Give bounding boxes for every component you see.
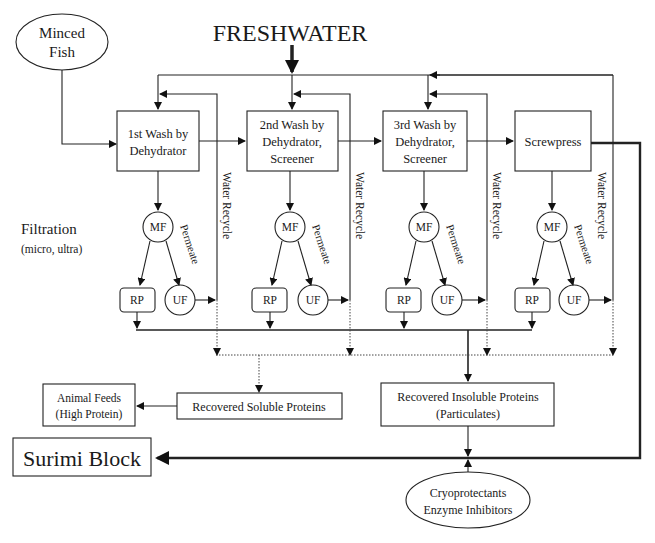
- permeate-label: Permeate: [444, 223, 468, 266]
- uf-label: UF: [440, 294, 455, 306]
- additives-label: Cryoprotectants: [430, 486, 507, 500]
- animal-feeds-label: Animal Feeds: [57, 392, 122, 404]
- additives-node: [406, 472, 530, 528]
- insoluble-proteins-label: Recovered Insoluble Proteins: [397, 390, 539, 404]
- rp-label: RP: [397, 294, 411, 306]
- surimi-block-label: Surimi Block: [23, 446, 141, 471]
- mf-label: MF: [416, 221, 433, 233]
- freshwater-label: FRESHWATER: [213, 20, 368, 46]
- permeate-label: Permeate: [310, 223, 334, 266]
- water-recycle-label: Water Recycle: [490, 172, 503, 239]
- filtration-subtitle: (micro, ultra): [21, 243, 82, 256]
- uf-label: UF: [173, 294, 188, 306]
- permeate-label: Permeate: [572, 223, 596, 266]
- stage-2-label-2: Dehydrator,: [262, 135, 322, 149]
- soluble-proteins-label: Recovered Soluble Proteins: [192, 400, 326, 414]
- rp-label: RP: [263, 294, 277, 306]
- mf-label: MF: [150, 221, 167, 233]
- water-recycle-label: Water Recycle: [220, 172, 233, 239]
- stage-3-label-3: Screener: [403, 152, 448, 166]
- rp-label: RP: [130, 294, 144, 306]
- stage-3-label: 3rd Wash by: [394, 118, 457, 132]
- stage-4-label: Screwpress: [525, 135, 582, 149]
- additives-label-2: Enzyme Inhibitors: [424, 503, 513, 517]
- mf-label: MF: [544, 221, 561, 233]
- uf-label: UF: [306, 294, 321, 306]
- stage-3-label-2: Dehydrator,: [395, 135, 455, 149]
- stage-1-label: 1st Wash by: [128, 127, 189, 141]
- rp-label: RP: [525, 294, 539, 306]
- mf-label: MF: [282, 221, 299, 233]
- surimi-process-flow-diagram: Minced Fish FRESHWATER 1st Wash by Dehyd…: [0, 0, 655, 543]
- filtration-title: Filtration: [21, 221, 77, 237]
- water-recycle-label: Water Recycle: [595, 172, 608, 239]
- stage-box-1: [117, 111, 199, 171]
- uf-label: UF: [567, 294, 582, 306]
- stage-2-label-3: Screener: [270, 152, 315, 166]
- permeate-label: Permeate: [178, 223, 202, 266]
- water-recycle-label: Water Recycle: [353, 172, 366, 239]
- minced-fish-label-1: Minced: [39, 25, 85, 41]
- insoluble-proteins-label-2: (Particulates): [436, 407, 500, 421]
- animal-feeds-label-2: (High Protein): [56, 408, 123, 421]
- stage-1-label-2: Dehydrator: [130, 144, 188, 158]
- stage-2-label: 2nd Wash by: [260, 118, 325, 132]
- minced-fish-node: [16, 14, 108, 70]
- fish-to-wash1-arrow: [62, 70, 116, 144]
- minced-fish-label-2: Fish: [49, 44, 75, 60]
